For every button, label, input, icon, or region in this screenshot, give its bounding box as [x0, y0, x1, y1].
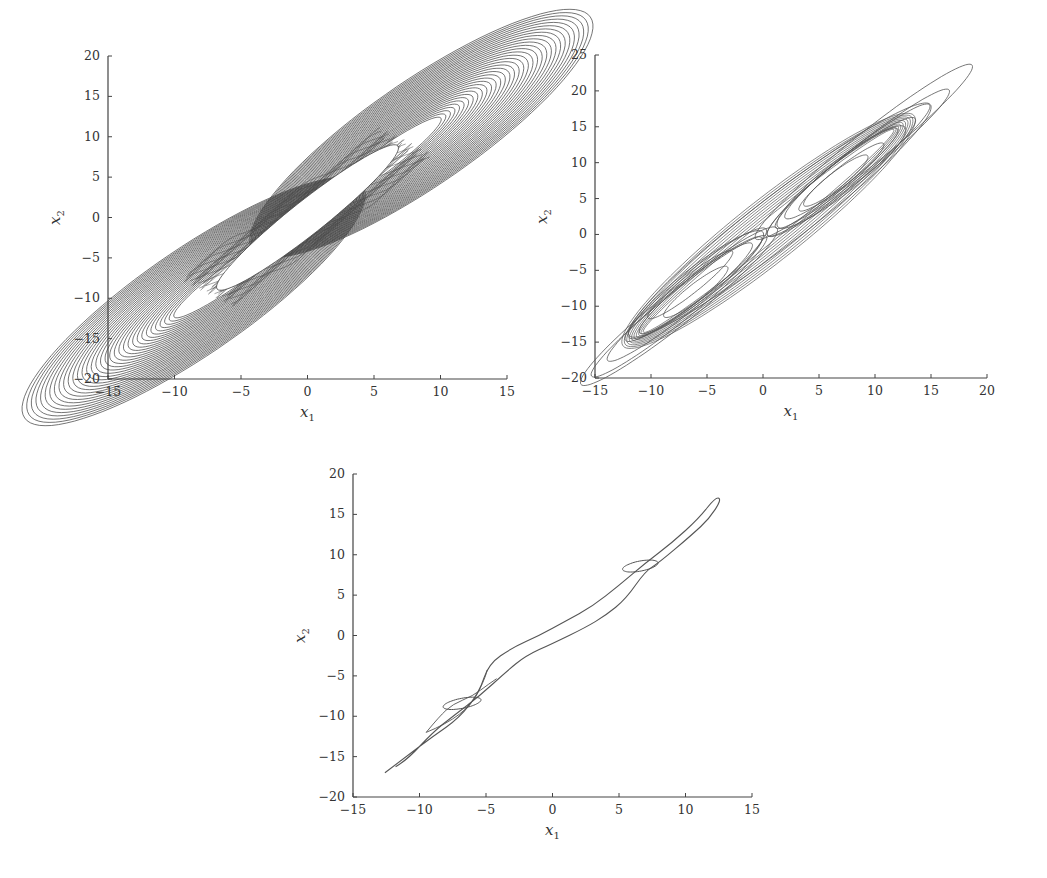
y-tick-label: −10 [74, 290, 100, 305]
y-tick-label: −20 [319, 789, 345, 804]
y-tick-label: 20 [84, 48, 100, 63]
y-tick-label: −20 [561, 370, 587, 385]
x-tick-label: 0 [549, 802, 557, 817]
y-axis-label: x2 [533, 209, 553, 224]
y-tick-label: 0 [579, 226, 587, 241]
y-tick-label: 10 [329, 547, 345, 562]
figure-canvas: −15−10−5051015−20−15−10−505101520x1x2 −1… [0, 0, 1047, 878]
trajectory [581, 64, 973, 385]
x-tick-label: 20 [979, 383, 995, 398]
phase-plot-bottom: −15−10−5051015−20−15−10−505101520x1x2 [291, 466, 760, 841]
y-tick-label: 5 [579, 191, 587, 206]
phase-plot-top-right: −15−10−505101520−20−15−10−50510152025x1x… [533, 47, 995, 422]
y-tick-label: −15 [319, 749, 345, 764]
y-axis-label: x2 [291, 628, 311, 643]
y-tick-label: 20 [571, 83, 587, 98]
y-tick-label: 10 [84, 129, 100, 144]
y-tick-label: −10 [561, 298, 587, 313]
y-tick-label: 0 [337, 628, 345, 643]
y-tick-label: 15 [84, 88, 100, 103]
x-tick-label: 10 [867, 383, 883, 398]
x-tick-label: 5 [615, 802, 623, 817]
trajectory [385, 498, 720, 773]
axes: −15−10−5051015−20−15−10−505101520x1x2 [291, 466, 760, 841]
x-tick-label: 10 [433, 384, 449, 399]
y-tick-label: 5 [337, 587, 345, 602]
y-tick-label: 5 [92, 169, 100, 184]
x-tick-label: −5 [232, 384, 250, 399]
x-tick-label: 5 [815, 383, 823, 398]
y-tick-label: 10 [571, 155, 587, 170]
x-tick-label: −10 [161, 384, 187, 399]
x-axis-label: x1 [784, 402, 799, 422]
y-tick-label: 0 [92, 210, 100, 225]
x-axis-label: x1 [545, 821, 560, 841]
y-axis-label: x2 [46, 210, 66, 225]
y-tick-label: 20 [329, 466, 345, 481]
y-tick-label: 25 [571, 47, 587, 62]
y-tick-label: −10 [319, 708, 345, 723]
x-tick-label: −5 [477, 802, 495, 817]
y-tick-label: −5 [82, 250, 100, 265]
x-tick-label: 0 [304, 384, 312, 399]
x-axis-label: x1 [300, 403, 315, 423]
y-tick-label: −5 [569, 262, 587, 277]
y-tick-label: 15 [571, 119, 587, 134]
x-tick-label: 15 [744, 802, 760, 817]
x-tick-label: −15 [340, 802, 366, 817]
x-tick-label: 5 [370, 384, 378, 399]
x-tick-label: −5 [698, 383, 716, 398]
phase-plot-top-left: −15−10−5051015−20−15−10−505101520x1x2 [22, 9, 593, 425]
x-tick-label: −10 [638, 383, 664, 398]
x-tick-label: −10 [406, 802, 432, 817]
x-tick-label: 15 [499, 384, 515, 399]
x-tick-label: 15 [923, 383, 939, 398]
y-tick-label: −5 [327, 668, 345, 683]
x-tick-label: 10 [678, 802, 694, 817]
y-tick-label: 15 [329, 506, 345, 521]
x-tick-label: 0 [759, 383, 767, 398]
y-tick-label: −15 [561, 334, 587, 349]
